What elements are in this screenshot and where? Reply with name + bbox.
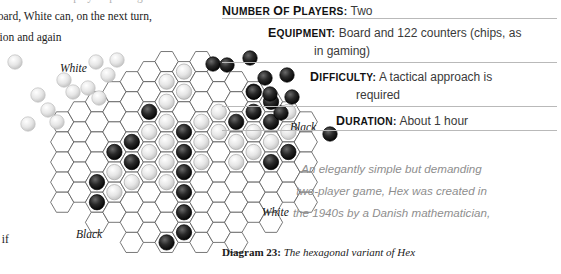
stone-black[interactable]	[124, 154, 139, 169]
hex-cell[interactable]	[85, 192, 108, 212]
hex-cell[interactable]	[207, 222, 230, 242]
loose-white-stone[interactable]	[101, 68, 115, 82]
stone-white[interactable]	[124, 174, 139, 189]
hex-cell[interactable]	[138, 162, 161, 182]
hex-cell[interactable]	[190, 212, 213, 232]
stone-white[interactable]	[159, 114, 174, 129]
stone-white[interactable]	[107, 164, 122, 179]
stone-black[interactable]	[176, 124, 191, 139]
hex-cell[interactable]	[172, 222, 195, 242]
hex-cell[interactable]	[138, 202, 161, 222]
stone-white[interactable]	[142, 164, 157, 179]
hex-cell[interactable]	[85, 172, 108, 192]
hex-cell[interactable]	[103, 202, 126, 222]
loose-white-stone[interactable]	[8, 55, 22, 69]
hex-cell[interactable]	[103, 142, 126, 162]
hex-cell[interactable]	[190, 192, 213, 212]
hex-cell[interactable]	[155, 52, 178, 72]
hex-cell[interactable]	[190, 72, 213, 92]
hex-cell[interactable]	[172, 162, 195, 182]
stone-black[interactable]	[107, 144, 122, 159]
loose-white-stone[interactable]	[92, 91, 106, 105]
hex-cell[interactable]	[85, 92, 108, 112]
hex-cell[interactable]	[103, 122, 126, 142]
hex-cell[interactable]	[120, 72, 143, 92]
stone-black[interactable]	[176, 164, 191, 179]
hex-cell[interactable]	[68, 102, 91, 122]
hex-cell[interactable]	[172, 122, 195, 142]
hex-cell[interactable]	[120, 112, 143, 132]
stone-black[interactable]	[176, 144, 191, 159]
hex-cell[interactable]	[172, 182, 195, 202]
hex-cell[interactable]	[51, 112, 74, 132]
hex-cell[interactable]	[120, 192, 143, 212]
stone-black[interactable]	[159, 235, 174, 250]
hex-cell[interactable]	[155, 112, 178, 132]
stone-black[interactable]	[142, 104, 157, 119]
loose-white-stone[interactable]	[57, 73, 71, 87]
stone-white[interactable]	[142, 144, 157, 159]
hex-cell[interactable]	[103, 182, 126, 202]
stone-white[interactable]	[159, 74, 174, 89]
loose-white-stone[interactable]	[66, 85, 80, 99]
hex-cell[interactable]	[190, 152, 213, 172]
hex-cell[interactable]	[120, 152, 143, 172]
hex-cell[interactable]	[190, 112, 213, 132]
hex-cell[interactable]	[172, 202, 195, 222]
hex-cell[interactable]	[172, 62, 195, 82]
hex-cell[interactable]	[138, 82, 161, 102]
hex-cell[interactable]	[51, 132, 74, 152]
loose-white-stone[interactable]	[89, 55, 103, 69]
stone-white[interactable]	[194, 114, 209, 129]
stone-white[interactable]	[159, 174, 174, 189]
loose-white-stone[interactable]	[81, 81, 95, 95]
stone-white[interactable]	[142, 124, 157, 139]
hex-cell[interactable]	[138, 62, 161, 82]
hex-cell[interactable]	[155, 92, 178, 112]
stone-black[interactable]	[176, 225, 191, 240]
hex-cell[interactable]	[190, 92, 213, 112]
loose-black-stone[interactable]	[206, 57, 220, 71]
stone-white[interactable]	[176, 84, 191, 99]
stone-white[interactable]	[159, 94, 174, 109]
hex-cell[interactable]	[120, 232, 143, 252]
hex-cell[interactable]	[138, 142, 161, 162]
hex-cell[interactable]	[138, 122, 161, 142]
hex-cell[interactable]	[155, 152, 178, 172]
stone-black[interactable]	[176, 185, 191, 200]
loose-white-stone[interactable]	[31, 88, 45, 102]
hex-cell[interactable]	[155, 192, 178, 212]
loose-white-stone[interactable]	[50, 115, 64, 129]
hex-cell[interactable]	[155, 72, 178, 92]
hex-cell[interactable]	[103, 102, 126, 122]
loose-white-stone[interactable]	[110, 53, 124, 67]
stone-white[interactable]	[107, 185, 122, 200]
hex-cell[interactable]	[190, 232, 213, 252]
stone-white[interactable]	[194, 154, 209, 169]
hex-cell[interactable]	[138, 102, 161, 122]
hex-cell[interactable]	[103, 162, 126, 182]
hex-cell[interactable]	[138, 182, 161, 202]
hex-cell[interactable]	[138, 222, 161, 242]
hex-cell[interactable]	[68, 182, 91, 202]
loose-white-stone[interactable]	[41, 103, 55, 117]
hex-cell[interactable]	[68, 142, 91, 162]
hex-cell[interactable]	[85, 152, 108, 172]
stone-black[interactable]	[89, 174, 104, 189]
hex-cell[interactable]	[51, 172, 74, 192]
hex-cell[interactable]	[155, 232, 178, 252]
stone-black[interactable]	[124, 134, 139, 149]
stone-white[interactable]	[176, 64, 191, 79]
loose-white-stone[interactable]	[21, 117, 35, 131]
hex-cell[interactable]	[155, 212, 178, 232]
hex-cell[interactable]	[120, 92, 143, 112]
stone-black[interactable]	[176, 205, 191, 220]
hex-cell[interactable]	[68, 122, 91, 142]
stone-white[interactable]	[159, 134, 174, 149]
hex-cell[interactable]	[155, 132, 178, 152]
hex-cell[interactable]	[172, 82, 195, 102]
hex-cell[interactable]	[85, 132, 108, 152]
hex-cell[interactable]	[51, 152, 74, 172]
hex-cell[interactable]	[103, 82, 126, 102]
hex-cell[interactable]	[120, 172, 143, 192]
